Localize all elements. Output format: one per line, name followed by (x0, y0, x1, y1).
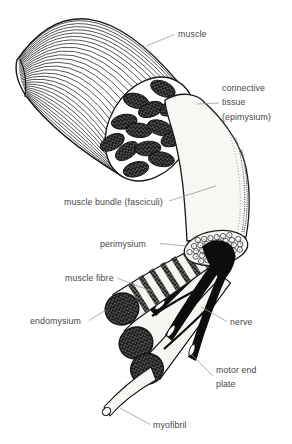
leader-motor-end-plate (189, 352, 213, 376)
leader-endomysium (89, 310, 106, 321)
label-connective-line2: tissue (222, 95, 271, 109)
leader-perimysium (160, 244, 186, 247)
label-myofibril: myofibril (153, 418, 187, 432)
label-muscle-fibre: muscle fibre (65, 271, 114, 285)
muscle-anatomy-diagram: muscle connective tissue (epimysium) mus… (0, 0, 292, 444)
label-connective-tissue: connective tissue (epimysium) (222, 81, 271, 124)
label-perimysium: perimysium (100, 237, 146, 251)
label-motor-end-plate: motor end plate (216, 363, 257, 392)
label-nerve: nerve (230, 315, 253, 329)
label-motor-line1: motor end (216, 363, 257, 377)
label-motor-line2: plate (216, 377, 257, 391)
leader-myofibril (120, 408, 150, 425)
label-muscle-bundle: muscle bundle (fasciculi) (64, 195, 163, 209)
label-muscle: muscle (178, 27, 206, 41)
label-endomysium: endomysium (30, 314, 81, 328)
myofibril (101, 367, 156, 417)
label-connective-line3: (epimysium) (222, 110, 271, 124)
label-connective-line1: connective (222, 81, 271, 95)
leader-muscle (146, 35, 175, 47)
